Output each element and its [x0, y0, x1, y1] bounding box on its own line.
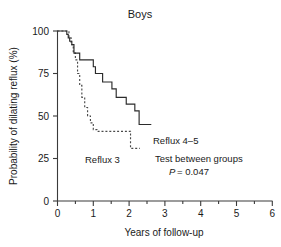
y-axis-label: Probability of dilating reflux (%) — [8, 47, 19, 185]
survival-chart-figure: Boys 100 75 50 25 0 Probability of dilat… — [0, 0, 281, 247]
chart-title: Boys — [128, 8, 153, 20]
x-tick-label-5: 5 — [234, 208, 240, 219]
curve-reflux-4-5 — [58, 31, 152, 125]
x-axis-major-ticks — [58, 201, 273, 206]
x-tick-label-2: 2 — [126, 208, 132, 219]
y-tick-label-50: 50 — [38, 111, 50, 122]
x-tick-label-3: 3 — [162, 208, 168, 219]
y-axis-ticks — [53, 31, 58, 201]
y-tick-label-25: 25 — [38, 153, 50, 164]
x-tick-label-6: 6 — [270, 208, 276, 219]
y-tick-label-75: 75 — [38, 68, 50, 79]
chart-svg: Boys 100 75 50 25 0 Probability of dilat… — [0, 0, 281, 247]
p-value-number: = 0.047 — [177, 166, 209, 177]
series-label-reflux-3: Reflux 3 — [85, 154, 120, 165]
y-tick-label-100: 100 — [32, 26, 49, 37]
p-value-symbol: P — [169, 166, 176, 177]
curve-reflux-3 — [58, 31, 140, 148]
x-tick-label-0: 0 — [55, 208, 61, 219]
x-axis-label: Years of follow-up — [124, 227, 204, 238]
series-label-reflux-4-5: Reflux 4–5 — [153, 135, 198, 146]
test-between-groups-label: Test between groups — [155, 153, 243, 164]
x-tick-label-4: 4 — [198, 208, 204, 219]
x-tick-label-1: 1 — [91, 208, 97, 219]
y-tick-label-0: 0 — [43, 196, 49, 207]
